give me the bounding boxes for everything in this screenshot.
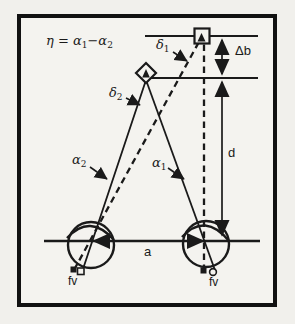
vergence-geometry-figure: η = α1−α2 δ1 δ2 α2 α1 Δb d a fv fv bbox=[0, 0, 295, 324]
formula-eta: η = α1−α2 bbox=[46, 34, 113, 47]
formula-part1: η = α bbox=[46, 33, 82, 48]
label-delta-b: Δb bbox=[235, 44, 251, 57]
formula-sub2: 2 bbox=[107, 40, 113, 50]
label-delta2: δ2 bbox=[109, 86, 123, 99]
left-fovea-marker bbox=[78, 268, 85, 275]
label-alpha1: α1 bbox=[152, 156, 167, 169]
label-a: a bbox=[144, 245, 151, 258]
label-fv-left: fv bbox=[68, 275, 77, 287]
formula-part2: −α bbox=[87, 33, 107, 48]
label-fv-right: fv bbox=[209, 276, 218, 288]
label-d: d bbox=[228, 146, 235, 159]
left-fovea-dashed-end-marker bbox=[71, 267, 77, 273]
label-alpha2: α2 bbox=[72, 153, 87, 166]
right-fovea-dashed-end-marker bbox=[201, 268, 207, 274]
label-delta1: δ1 bbox=[156, 38, 170, 51]
panel-background bbox=[19, 16, 275, 305]
